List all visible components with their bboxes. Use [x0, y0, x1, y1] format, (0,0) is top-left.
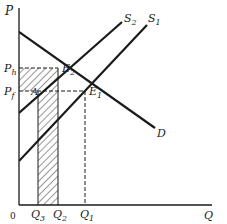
pf-label: Pf — [3, 85, 16, 100]
s1-label: S1 — [148, 12, 161, 27]
origin-label: 0 — [10, 211, 16, 221]
x-axis-label: Q — [204, 209, 213, 222]
supply-demand-diagram: P Q 0 D S1 S2 E1 E2 A Ph Pf Q3 Q2 Q1 — [0, 0, 227, 224]
q1-label: Q1 — [80, 208, 94, 223]
y-axis-label: P — [4, 4, 14, 18]
hatched-area-upper — [19, 68, 58, 91]
a-label: A — [30, 86, 38, 97]
ph-label: Ph — [3, 62, 17, 77]
q3-label: Q3 — [31, 208, 45, 223]
demand-label: D — [156, 127, 166, 140]
s2-label: S2 — [124, 12, 137, 27]
q2-label: Q2 — [53, 208, 67, 223]
hatched-area-lower — [38, 91, 58, 205]
e1-label: E1 — [88, 85, 102, 100]
